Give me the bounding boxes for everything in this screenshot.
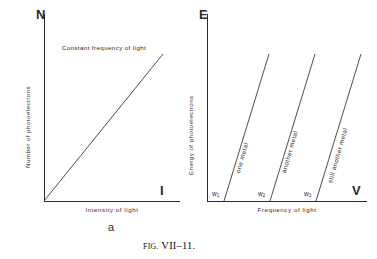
threshold-symbol-w2: w xyxy=(258,190,263,197)
panel-a-plot xyxy=(0,0,190,259)
threshold-symbol-w3: w xyxy=(304,190,309,197)
threshold-subscript-w2: 2 xyxy=(263,193,266,198)
panel-a-caption: a xyxy=(108,221,114,233)
threshold-subscript-w3: 3 xyxy=(309,193,312,198)
panel-b-threshold-label-w2: w2 xyxy=(258,191,265,198)
panel-b-threshold-label-w3: w3 xyxy=(304,191,311,198)
figure-caption-number: VII–11. xyxy=(161,240,195,251)
panel-b: E V Energy of photoelectrons Frequency o… xyxy=(190,0,377,259)
panel-b-data-line-still-another-metal xyxy=(316,54,361,201)
figure-caption: FIG. VII–11. xyxy=(143,240,195,251)
panel-a: N I Number of photoelectrons Intensity o… xyxy=(0,0,190,259)
panel-b-threshold-label-w1: w1 xyxy=(212,191,219,198)
figure-vii-11: N I Number of photoelectrons Intensity o… xyxy=(0,0,377,259)
panel-b-data-line-another-metal xyxy=(270,54,315,201)
panel-b-data-line-one-metal xyxy=(224,54,269,201)
panel-b-plot xyxy=(190,0,377,259)
figure-caption-prefix: FIG. xyxy=(143,242,159,251)
threshold-subscript-w1: 1 xyxy=(217,193,220,198)
panel-a-data-line xyxy=(44,54,163,201)
threshold-symbol-w1: w xyxy=(212,190,217,197)
